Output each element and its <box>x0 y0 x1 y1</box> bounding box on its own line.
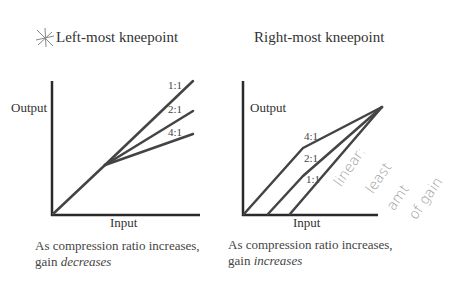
left-caption-emph: decreases <box>61 254 112 269</box>
right-caption-emph: increases <box>254 253 303 268</box>
star-icon <box>36 28 54 47</box>
right-x-label: Input <box>293 215 320 231</box>
left-caption-line2: gain decreases <box>35 254 200 270</box>
right-ratio-4-1: 4:1 <box>304 130 318 142</box>
right-caption-line1: As compression ratio increases, <box>228 237 393 253</box>
left-caption: As compression ratio increases, gain dec… <box>35 238 200 270</box>
left-ratio-4-1: 4:1 <box>168 126 182 138</box>
right-y-label: Output <box>250 100 286 116</box>
left-curves <box>53 81 193 214</box>
right-caption-prefix: gain <box>228 253 254 268</box>
left-caption-prefix: gain <box>35 254 61 269</box>
left-ratio-2-1: 2:1 <box>168 103 182 115</box>
left-caption-line1: As compression ratio increases, <box>35 238 200 254</box>
right-ratio-2-1: 2:1 <box>304 152 318 164</box>
right-panel-title: Right-most kneepoint <box>254 29 384 46</box>
left-panel-title: Left-most kneepoint <box>56 29 178 46</box>
right-caption: As compression ratio increases, gain inc… <box>228 237 393 269</box>
right-ratio-1-1: 1:1 <box>306 173 320 185</box>
left-y-label: Output <box>11 100 47 116</box>
left-ratio-1-1: 1:1 <box>168 79 182 91</box>
left-x-label: Input <box>110 215 137 231</box>
right-caption-line2: gain increases <box>228 253 393 269</box>
